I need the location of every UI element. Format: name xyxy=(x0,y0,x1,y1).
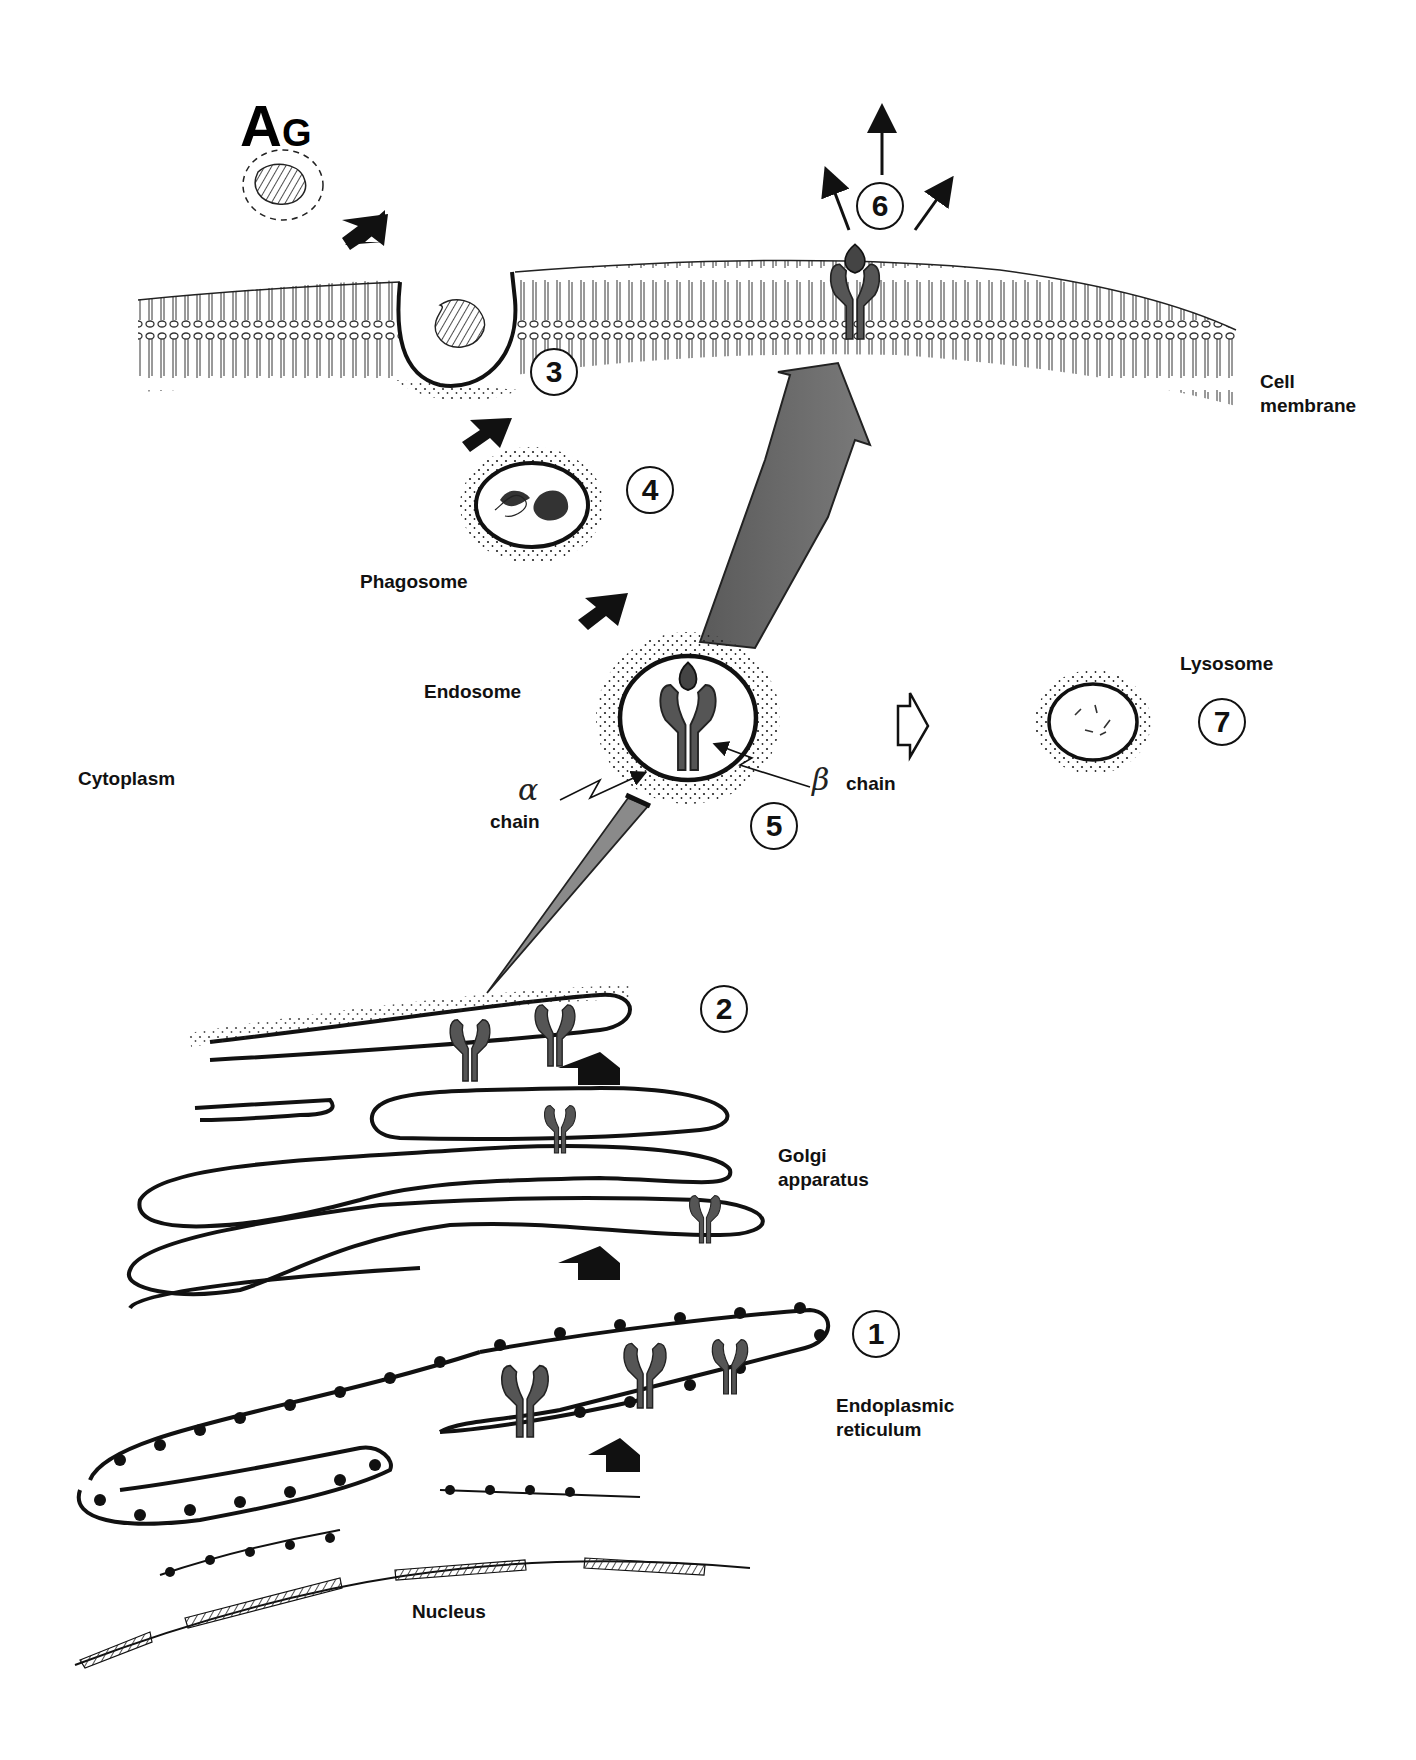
label-nucleus: Nucleus xyxy=(412,1600,486,1624)
beta-symbol: β xyxy=(812,762,829,797)
step-7-marker: 7 xyxy=(1198,698,1246,746)
antigen-in-pit xyxy=(435,300,484,347)
step-2-marker: 2 xyxy=(700,985,748,1033)
label-endosome: Endosome xyxy=(424,680,521,704)
golgi-apparatus xyxy=(129,992,763,1308)
cell-membrane xyxy=(138,244,1236,406)
step-5-marker: 5 xyxy=(750,802,798,850)
step-3-marker: 3 xyxy=(530,348,578,396)
alpha-symbol: α xyxy=(518,772,538,807)
endosome xyxy=(560,632,810,804)
label-cytoplasm: Cytoplasm xyxy=(78,767,175,791)
diagram-drawing xyxy=(0,0,1416,1760)
label-phagosome: Phagosome xyxy=(360,570,468,594)
step-4-marker: 4 xyxy=(626,466,674,514)
phagosome xyxy=(460,447,604,563)
antigen-label: AG xyxy=(240,92,311,159)
step-1-marker: 1 xyxy=(852,1310,900,1358)
transport-arrow-to-membrane xyxy=(700,363,870,648)
label-golgi: Golgi apparatus xyxy=(778,1144,869,1192)
label-cell-membrane: Cell membrane xyxy=(1260,370,1356,418)
label-er: Endoplasmic reticulum xyxy=(836,1394,954,1442)
antigen-particle xyxy=(243,150,323,220)
lysosome xyxy=(1035,670,1151,774)
flow-chevron-arrows xyxy=(342,210,640,1472)
endoplasmic-reticulum xyxy=(79,1302,828,1577)
step-6-marker: 6 xyxy=(856,182,904,230)
label-lysosome: Lysosome xyxy=(1180,652,1273,676)
label-alpha-chain: chain xyxy=(490,810,540,834)
label-beta-chain: chain xyxy=(846,772,896,796)
diagram-canvas: AG Cell membrane Phagosome Endosome Lyso… xyxy=(0,0,1416,1760)
open-arrow-to-lysosome xyxy=(898,693,928,757)
